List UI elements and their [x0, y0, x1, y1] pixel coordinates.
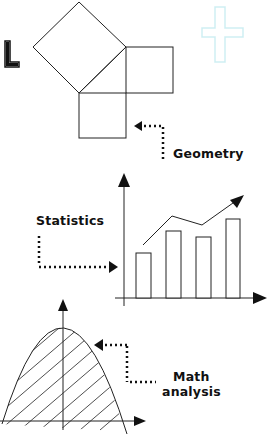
corner-icon — [5, 41, 19, 67]
math-label-line1: Math — [173, 370, 210, 384]
statistics-label: Statistics — [36, 214, 104, 228]
geometry-arrow — [134, 121, 163, 161]
statistics-arrow — [39, 236, 118, 273]
pythagoras-figure — [33, 2, 173, 138]
bar-chart — [115, 173, 267, 306]
geometry-label: Geometry — [173, 147, 244, 161]
math-label-line2: analysis — [162, 385, 221, 399]
plus-icon — [202, 7, 243, 62]
parabola-figure — [0, 299, 240, 434]
